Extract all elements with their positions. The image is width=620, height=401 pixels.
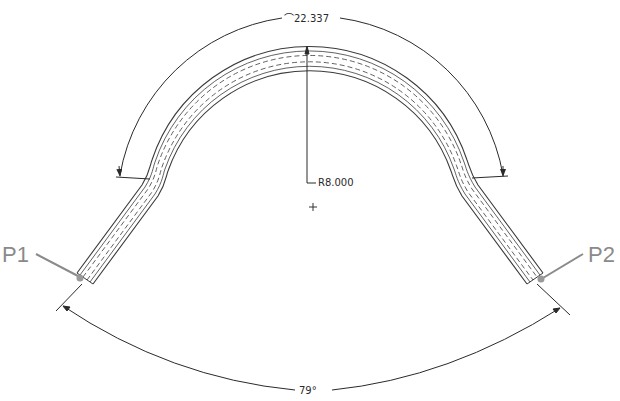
center-mark	[309, 203, 317, 211]
tube-inner-wall	[93, 71, 527, 284]
tube-drawing: ⌒22.337 R8.000 79° P1 P2	[0, 0, 620, 401]
radius-label: R8.000	[318, 177, 354, 188]
point-callout-p1: P1	[2, 242, 84, 282]
point-callout-p2: P2	[538, 242, 615, 283]
point-marker-p2	[538, 276, 545, 283]
point-label-p2: P2	[588, 242, 615, 267]
angle-dimension	[56, 284, 570, 390]
point-label-p1: P1	[2, 242, 29, 267]
tube-body	[77, 46, 543, 284]
angle-label: 79°	[299, 385, 317, 396]
point-marker-p1	[77, 275, 84, 282]
tube-outer-wall-2	[80, 51, 540, 275]
arc-length-label: ⌒22.337	[284, 13, 329, 24]
tube-inner-wall-2	[90, 66, 530, 282]
tube-outer-wall	[77, 46, 543, 273]
